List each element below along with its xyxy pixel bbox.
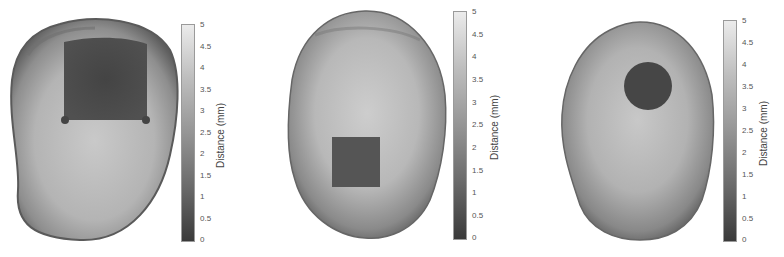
- corner-dot-left: [61, 116, 69, 124]
- panel-2: 5 4.5 4 3.5 3 2.5 2 1.5 1 0.5 0 Distance…: [270, 0, 520, 257]
- dark-patch-rectangle: [64, 38, 147, 120]
- colorbar-label-3: Distance (mm): [758, 101, 769, 166]
- corner-dot-right: [142, 116, 150, 124]
- colorbar-label-2: Distance (mm): [489, 95, 500, 160]
- colorbar-3: [723, 20, 737, 242]
- panel-1: 5 4.5 4 3.5 3 2.5 2 1.5 1 0.5 0 Distance…: [0, 0, 260, 257]
- panel-3: 5 4.5 4 3.5 3 2.5 2 1.5 1 0.5 0 Distance…: [530, 0, 784, 257]
- colorbar-1: [181, 24, 195, 242]
- dark-patch-circle: [624, 62, 672, 110]
- dark-patch-square: [332, 137, 380, 187]
- colorbar-label-1: Distance (mm): [215, 103, 226, 168]
- colorbar-2: [453, 11, 467, 240]
